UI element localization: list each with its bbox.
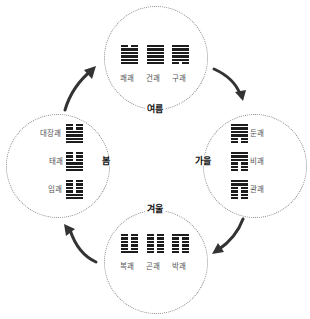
seasonal-hexagram-cycle-diagram: 쾌괘 건괘 구괘 여름 대장괘 태괘 임괘 봄 둔괘 비괘 관괘 가을 겨울 복…: [0, 0, 310, 319]
arrow-spring-to-summer-icon: [65, 66, 96, 110]
arrow-winter-to-spring-icon: [64, 224, 96, 262]
cycle-arrows: [0, 0, 310, 319]
arrow-autumn-to-winter-icon: [212, 219, 243, 254]
arrow-summer-to-autumn-icon: [214, 69, 246, 101]
